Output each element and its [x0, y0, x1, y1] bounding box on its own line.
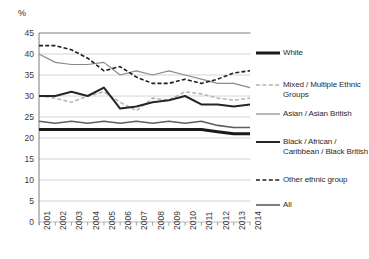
legend-line-swatch-other [256, 175, 280, 185]
x-axis-tick-label: 2006 [124, 211, 132, 230]
plot-area [0, 0, 369, 259]
legend-item-black[interactable]: Black / African /Caribbean / Black Briti… [256, 137, 369, 157]
legend-item-label: Mixed / Multiple EthnicGroups [283, 80, 361, 100]
y-axis-tick-label: 30 [14, 92, 34, 100]
y-axis-tick-label: 35 [14, 71, 34, 79]
legend-item-all[interactable]: All [256, 200, 369, 210]
legend-line-swatch-asian [256, 109, 280, 119]
x-axis-tick-label: 2009 [173, 211, 181, 230]
series-line-white [39, 130, 250, 134]
y-axis-tick-label: 40 [14, 50, 34, 58]
y-axis-tick-label: 15 [14, 155, 34, 163]
x-axis-tick-label: 2003 [75, 211, 83, 230]
legend-line-swatch-mixed [256, 80, 280, 90]
x-axis-tick-label: 2012 [222, 211, 230, 230]
series-line-all [39, 121, 250, 127]
series-line-asian-asian-british [39, 54, 250, 88]
legend-item-label: Asian / Asian British [283, 109, 352, 119]
x-axis-tick-label: 2013 [238, 211, 246, 230]
legend-item-label: Other ethnic group [283, 175, 347, 185]
legend-item-other[interactable]: Other ethnic group [256, 175, 369, 185]
legend-item-mixed[interactable]: Mixed / Multiple EthnicGroups [256, 80, 369, 100]
y-axis-tick-label: 20 [14, 134, 34, 142]
legend-item-label: All [283, 200, 292, 210]
x-axis-tick-label: 2011 [205, 212, 213, 230]
y-axis-tick-label: 25 [14, 113, 34, 121]
x-axis-tick-label: 2005 [108, 211, 116, 230]
x-axis-tick-label: 2014 [254, 211, 262, 230]
legend-item-label: White [283, 48, 303, 58]
y-axis-tick-label: 0 [14, 218, 34, 226]
y-axis-tick-label: 5 [14, 197, 34, 205]
x-axis-tick-label: 2007 [140, 211, 148, 230]
y-axis-tick-label: 10 [14, 176, 34, 184]
chart-figure: % 051015202530354045 2001200220032004200… [0, 0, 369, 259]
legend-line-swatch-all [256, 200, 280, 210]
series-line-mixed-multiple-ethnic-groups [39, 92, 250, 111]
x-axis-tick-label: 2002 [59, 211, 67, 230]
y-axis-tick-label: 45 [14, 29, 34, 37]
x-axis-tick-label: 2004 [92, 211, 100, 230]
legend-item-asian[interactable]: Asian / Asian British [256, 109, 369, 119]
legend-line-swatch-black [256, 137, 280, 147]
x-axis-tick-label: 2001 [43, 211, 51, 230]
x-axis-tick-label: 2008 [157, 211, 165, 230]
legend-item-white[interactable]: White [256, 48, 369, 58]
legend-line-swatch-white [256, 48, 280, 58]
x-axis-tick-label: 2010 [189, 211, 197, 230]
legend-item-label: Black / African /Caribbean / Black Briti… [283, 137, 368, 157]
